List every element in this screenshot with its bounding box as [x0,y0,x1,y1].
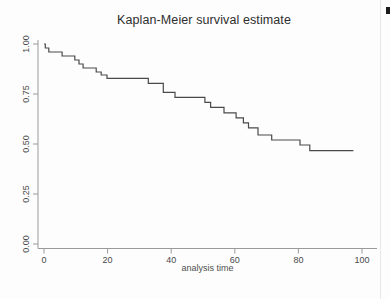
x-axis-label: analysis time [38,263,377,273]
page-edge-line [380,0,381,299]
plot-svg: 0.000.250.500.751.00020406080100 [0,0,390,299]
y-tick-label: 0.50 [21,135,31,153]
y-tick-label: 1.00 [21,35,31,53]
y-tick-label: 0.00 [21,235,31,253]
y-tick-label: 0.25 [21,185,31,203]
y-tick-label: 0.75 [21,85,31,103]
document-page: Kaplan-Meier survival estimate 0.000.250… [0,0,390,299]
survival-curve [44,44,353,151]
cutoff-glyph-fragment [386,7,390,14]
